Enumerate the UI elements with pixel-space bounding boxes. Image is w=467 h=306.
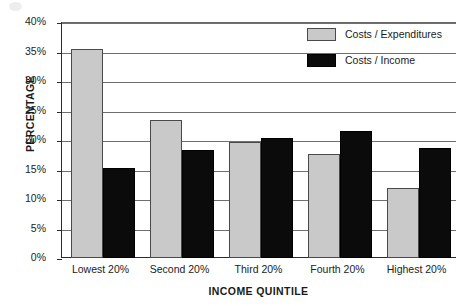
y-axis-tick-mark [57, 171, 62, 172]
y-axis-tick-mark [57, 112, 62, 113]
y-axis-tick-mark [57, 200, 62, 201]
black-swatch [307, 54, 336, 67]
y-axis-tick-label: 15% [12, 164, 46, 175]
legend-label: Costs / Income [345, 54, 415, 66]
y-axis-tick-label: 10% [12, 193, 46, 204]
y-axis-tick-mark [57, 53, 62, 54]
y-axis-tick-label: 25% [12, 105, 46, 116]
gridline [62, 82, 456, 83]
bar-chart: PERCENTAGE 0%5%10%15%20%25%30%35%40% Low… [0, 0, 467, 306]
y-axis-tick-label: 20% [12, 134, 46, 145]
x-axis-tick-label: Second 20% [140, 263, 219, 275]
gridline [62, 112, 456, 113]
y-axis-tick-label: 40% [12, 16, 46, 27]
bar [71, 49, 103, 258]
chart-legend: Costs / ExpendituresCosts / Income [307, 23, 457, 75]
y-axis-tick-label: 0% [12, 252, 46, 263]
bar [182, 150, 214, 258]
x-axis-tick-label: Third 20% [219, 263, 298, 275]
bar [103, 168, 135, 258]
gray-swatch [307, 28, 336, 41]
y-axis-tick-label: 30% [12, 75, 46, 86]
bar [340, 131, 372, 258]
y-axis-tick-mark [57, 259, 62, 260]
x-axis-title: INCOME QUINTILE [61, 285, 456, 297]
bar [419, 148, 451, 258]
y-axis-tick-labels: 0%5%10%15%20%25%30%35%40% [6, 0, 46, 306]
x-axis-tick-label: Fourth 20% [298, 263, 377, 275]
legend-item: Costs / Income [307, 49, 457, 71]
legend-label: Costs / Expenditures [345, 28, 442, 40]
bar [387, 188, 419, 258]
x-axis-tick-label: Lowest 20% [61, 263, 140, 275]
y-axis-tick-mark [57, 141, 62, 142]
legend-item: Costs / Expenditures [307, 23, 457, 45]
y-axis-tick-label: 5% [12, 223, 46, 234]
y-axis-tick-mark [57, 23, 62, 24]
y-axis-tick-mark [57, 82, 62, 83]
bar [150, 120, 182, 258]
x-axis-tick-label: Highest 20% [377, 263, 456, 275]
bar [261, 138, 293, 258]
bar [308, 154, 340, 258]
y-axis-tick-label: 35% [12, 46, 46, 57]
bar [229, 142, 261, 258]
y-axis-tick-mark [57, 230, 62, 231]
